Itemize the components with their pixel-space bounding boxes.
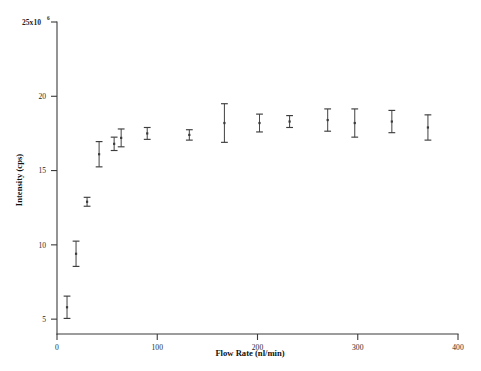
data-point-marker <box>113 143 115 145</box>
data-point-errorbar <box>73 241 80 266</box>
x-tick-label-100: 100 <box>152 343 164 352</box>
y-axis-ticks: 5101520 <box>38 22 57 324</box>
data-point-errorbar <box>286 116 293 128</box>
data-point-errorbar <box>351 109 358 137</box>
y-axis-title: Intensity (cps) <box>14 154 24 206</box>
data-point-marker <box>288 120 290 122</box>
data-point-marker <box>66 306 68 308</box>
data-point-errorbar <box>111 137 118 150</box>
data-point-marker <box>146 132 148 134</box>
y-axis-multiplier-exponent: 6 <box>47 15 50 21</box>
data-point-errorbar <box>221 104 228 143</box>
x-tick-label-0: 0 <box>55 343 59 352</box>
data-point-marker <box>391 120 393 122</box>
data-point-errorbar <box>118 129 125 147</box>
data-point-marker <box>98 153 100 155</box>
data-point-marker <box>188 134 190 136</box>
data-point-marker <box>120 137 122 139</box>
data-series-error-bars <box>64 104 432 319</box>
y-axis-multiplier-label: 25x10 <box>22 18 41 27</box>
chart-figure: 5101520 0100200300400 25x10 6 Flow Rate … <box>0 0 481 371</box>
data-point-marker <box>258 122 260 124</box>
data-point-errorbar <box>388 110 395 132</box>
x-axis-title: Flow Rate (nl/min) <box>215 348 284 358</box>
y-tick-label-20: 20 <box>38 92 46 101</box>
data-point-marker <box>427 126 429 128</box>
data-point-errorbar <box>64 296 71 318</box>
data-point-errorbar <box>256 114 263 132</box>
data-point-errorbar <box>144 127 151 139</box>
x-tick-label-400: 400 <box>452 343 464 352</box>
data-point-errorbar <box>324 109 331 131</box>
y-axis-multiplier: 25x10 6 <box>22 15 50 27</box>
data-point-errorbar <box>186 130 193 140</box>
data-point-marker <box>354 122 356 124</box>
data-point-errorbar <box>84 197 91 206</box>
y-tick-label-15: 15 <box>38 166 46 175</box>
data-point-errorbar <box>425 115 432 140</box>
axes-group <box>57 22 458 334</box>
y-tick-label-10: 10 <box>38 241 46 250</box>
data-point-marker <box>223 122 225 124</box>
scatter-plot-canvas: 5101520 0100200300400 25x10 6 Flow Rate … <box>0 0 481 371</box>
data-point-marker <box>327 119 329 121</box>
data-point-errorbar <box>96 142 103 167</box>
x-tick-label-300: 300 <box>352 343 364 352</box>
data-point-marker <box>75 253 77 255</box>
data-point-marker <box>86 201 88 203</box>
y-tick-label-5: 5 <box>42 315 46 324</box>
